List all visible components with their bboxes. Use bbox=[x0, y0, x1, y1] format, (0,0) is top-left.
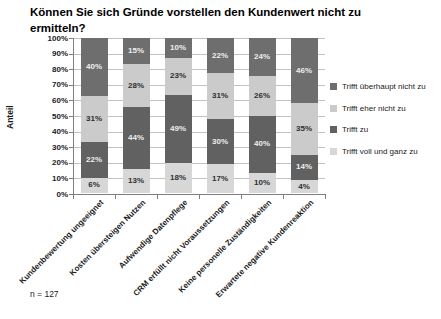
x-tick-mark bbox=[325, 195, 326, 199]
bar-5: 24%26%40%10% bbox=[249, 38, 276, 193]
plot-area: 40%31%22%6%15%28%44%13%10%23%49%18%22%31… bbox=[73, 38, 325, 194]
bar-segment: 4% bbox=[291, 180, 318, 193]
legend-swatch-icon bbox=[330, 148, 337, 155]
bar-segment: 46% bbox=[291, 38, 318, 103]
bar-segment: 18% bbox=[165, 163, 192, 193]
x-tick-mark bbox=[157, 195, 158, 199]
y-tick-mark bbox=[69, 54, 73, 55]
legend-item: Trifft eher nicht zu bbox=[330, 104, 406, 113]
y-tick-mark bbox=[69, 147, 73, 148]
data-label: 49% bbox=[170, 125, 186, 133]
chart-title-line2: ermitteln? bbox=[30, 22, 86, 34]
y-tick-label-60%: 60% bbox=[38, 96, 68, 105]
y-tick-mark bbox=[69, 85, 73, 86]
y-tick-mark bbox=[69, 100, 73, 101]
x-tick-mark bbox=[73, 195, 74, 199]
bar-segment: 15% bbox=[123, 38, 150, 64]
bar-segment: 40% bbox=[249, 116, 276, 173]
chart-title-line1: Können Sie sich Gründe vorstellen den Ku… bbox=[30, 6, 361, 18]
gridline-50 bbox=[73, 116, 325, 117]
gridline-100 bbox=[73, 38, 325, 39]
y-tick-label-40%: 40% bbox=[38, 127, 68, 136]
data-label: 30% bbox=[212, 138, 228, 146]
bar-segment: 14% bbox=[291, 155, 318, 180]
gridline-90 bbox=[73, 54, 325, 55]
gridline-80 bbox=[73, 69, 325, 70]
x-tick-mark bbox=[283, 195, 284, 199]
bar-segment: 26% bbox=[249, 76, 276, 116]
legend-label: Trifft eher nicht zu bbox=[342, 104, 406, 113]
gridline-70 bbox=[73, 85, 325, 86]
y-tick-mark bbox=[69, 178, 73, 179]
x-tick-mark bbox=[199, 195, 200, 199]
y-tick-label-100%: 100% bbox=[38, 34, 68, 43]
legend-swatch-icon bbox=[330, 105, 337, 112]
data-label: 24% bbox=[254, 53, 270, 61]
data-label: 17% bbox=[212, 175, 228, 183]
data-label: 13% bbox=[128, 177, 144, 185]
data-label: 40% bbox=[254, 140, 270, 148]
legend-item: Trifft zu bbox=[330, 125, 368, 134]
legend-item: Trifft überhaupt nicht zu bbox=[330, 82, 426, 91]
bar-segment: 30% bbox=[207, 119, 234, 164]
bar-segment: 31% bbox=[81, 96, 108, 143]
y-axis-line bbox=[73, 38, 74, 195]
data-label: 44% bbox=[128, 134, 144, 142]
data-label: 23% bbox=[170, 72, 186, 80]
bar-segment: 6% bbox=[81, 178, 108, 193]
bar-segment: 49% bbox=[165, 95, 192, 163]
legend-label: Trifft überhaupt nicht zu bbox=[342, 82, 426, 91]
gridline-10 bbox=[73, 178, 325, 179]
bar-6: 46%35%14%4% bbox=[291, 38, 318, 193]
bar-4: 22%31%30%17% bbox=[207, 38, 234, 193]
data-label: 6% bbox=[88, 181, 100, 189]
data-label: 14% bbox=[296, 163, 312, 171]
bar-segment: 24% bbox=[249, 38, 276, 76]
data-label: 26% bbox=[254, 92, 270, 100]
y-tick-mark bbox=[69, 132, 73, 133]
bar-segment: 10% bbox=[249, 173, 276, 193]
bar-2: 15%28%44%13% bbox=[123, 38, 150, 193]
y-tick-mark bbox=[69, 69, 73, 70]
data-label: 35% bbox=[296, 125, 312, 133]
y-tick-label-80%: 80% bbox=[38, 65, 68, 74]
bar-segment: 17% bbox=[207, 164, 234, 193]
legend-swatch-icon bbox=[330, 83, 337, 90]
y-tick-mark bbox=[69, 163, 73, 164]
y-tick-mark bbox=[69, 116, 73, 117]
bar-segment: 44% bbox=[123, 107, 150, 169]
x-tick-mark bbox=[115, 195, 116, 199]
bar-segment: 40% bbox=[81, 38, 108, 96]
gridline-40 bbox=[73, 132, 325, 133]
bar-segment: 10% bbox=[165, 38, 192, 58]
bar-segment: 31% bbox=[207, 73, 234, 119]
y-tick-label-50%: 50% bbox=[38, 112, 68, 121]
bar-segment: 35% bbox=[291, 103, 318, 154]
data-label: 40% bbox=[86, 63, 102, 71]
data-label: 31% bbox=[212, 92, 228, 100]
y-tick-mark bbox=[69, 38, 73, 39]
bar-segment: 23% bbox=[165, 58, 192, 94]
x-tick-mark bbox=[241, 195, 242, 199]
legend-label: Trifft voll und ganz zu bbox=[342, 147, 418, 156]
y-axis-title: Anteil bbox=[5, 113, 15, 129]
legend-swatch-icon bbox=[330, 126, 337, 133]
data-label: 10% bbox=[170, 44, 186, 52]
data-label: 31% bbox=[86, 115, 102, 123]
y-tick-label-70%: 70% bbox=[38, 80, 68, 89]
gridline-60 bbox=[73, 100, 325, 101]
data-label: 46% bbox=[296, 67, 312, 75]
y-tick-label-0%: 0% bbox=[38, 190, 68, 199]
chart-figure: Können Sie sich Gründe vorstellen den Ku… bbox=[0, 0, 441, 319]
bar-segment: 22% bbox=[81, 142, 108, 177]
gridline-20 bbox=[73, 163, 325, 164]
data-label: 18% bbox=[170, 174, 186, 182]
chart-title: Können Sie sich Gründe vorstellen den Ku… bbox=[30, 4, 420, 36]
y-tick-label-20%: 20% bbox=[38, 158, 68, 167]
data-label: 28% bbox=[128, 82, 144, 90]
y-tick-label-30%: 30% bbox=[38, 143, 68, 152]
data-label: 22% bbox=[212, 52, 228, 60]
bar-3: 10%23%49%18% bbox=[165, 38, 192, 193]
data-label: 22% bbox=[86, 156, 102, 164]
gridline-30 bbox=[73, 147, 325, 148]
